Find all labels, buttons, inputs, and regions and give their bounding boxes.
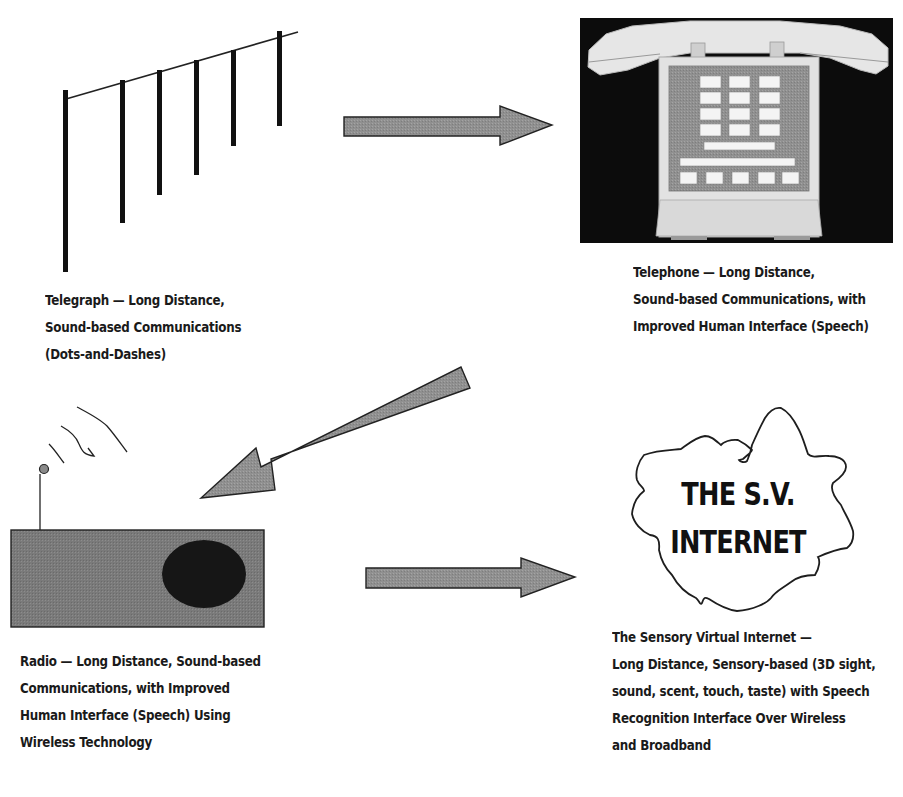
telegraph-caption: Telegraph — Long Distance, Sound-based C… <box>45 287 241 368</box>
caption-line: Human Interface (Speech) Using <box>20 702 261 729</box>
telegraph-wire <box>66 32 298 99</box>
telegraph-pole <box>157 70 162 195</box>
telegraph-poles-icon <box>63 31 298 272</box>
cloud-label-line-2: INTERNET <box>670 523 807 561</box>
caption-line: The Sensory Virtual Internet — <box>612 624 875 651</box>
caption-line: Telegraph — Long Distance, <box>45 287 241 314</box>
arrow-telegraph-to-telephone <box>344 106 552 145</box>
radio-wave-icon <box>61 426 94 456</box>
radio-speaker <box>162 540 246 608</box>
sv-internet-caption: The Sensory Virtual Internet — Long Dist… <box>612 624 875 759</box>
caption-line: Telephone — Long Distance, <box>633 259 869 286</box>
arrow-radio-to-internet <box>366 558 575 597</box>
caption-line: sound, scent, touch, taste) with Speech <box>612 678 875 705</box>
caption-line: Wireless Technology <box>20 729 261 756</box>
caption-line: Sound-based Communications, with <box>633 286 869 313</box>
telegraph-pole <box>120 80 125 223</box>
radio-caption: Radio — Long Distance, Sound-based Commu… <box>20 648 261 756</box>
telegraph-pole <box>194 60 199 175</box>
caption-line: Recognition Interface Over Wireless <box>612 705 875 732</box>
caption-line: Long Distance, Sensory-based (3D sight, <box>612 651 875 678</box>
radio-wave-icon <box>77 407 127 452</box>
arrow-telephone-to-radio <box>201 367 470 498</box>
cloud-label-line-1: THE S.V. <box>681 475 794 513</box>
radio-wave-icon <box>49 444 64 463</box>
radio-icon <box>11 407 264 627</box>
caption-line: Sound-based Communications <box>45 314 241 341</box>
telegraph-pole <box>231 50 236 146</box>
telephone-icon <box>580 18 893 243</box>
caption-line: (Dots-and-Dashes) <box>45 341 241 368</box>
telephone-caption: Telephone — Long Distance, Sound-based C… <box>633 259 869 340</box>
caption-line: and Broadband <box>612 732 875 759</box>
telegraph-pole <box>63 90 68 272</box>
caption-line: Improved Human Interface (Speech) <box>633 313 869 340</box>
caption-line: Radio — Long Distance, Sound-based <box>20 648 261 675</box>
caption-line: Communications, with Improved <box>20 675 261 702</box>
cloud-icon: THE S.V. INTERNET <box>632 408 853 611</box>
telegraph-pole <box>277 31 282 126</box>
